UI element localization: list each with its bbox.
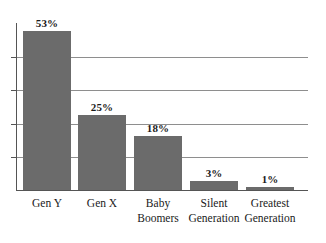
bar-silent-generation[interactable]: [190, 181, 238, 190]
bar-greatest-generation[interactable]: [246, 187, 294, 190]
bar-value-gen-x: 25%: [78, 101, 126, 113]
bar-value-gen-y: 53%: [23, 17, 71, 29]
x-axis-label-silent-generation-line1: Silent: [201, 197, 228, 209]
x-axis-label-greatest-generation-line1: Greatest: [251, 197, 289, 209]
bar-value-baby-boomers: 18%: [134, 122, 182, 134]
bar-gen-y[interactable]: [23, 31, 71, 190]
bar-chart: 53% 25% 18% 3% 1% Gen Y Gen X Baby Boome…: [0, 0, 326, 243]
x-axis-label-greatest-generation: Greatest Generation: [234, 196, 306, 226]
x-axis-label-gen-x: Gen X: [70, 196, 134, 211]
bar-gen-x[interactable]: [78, 115, 126, 190]
x-axis-label-baby-boomers-line1: Baby: [146, 197, 170, 209]
x-axis-label-gen-x-line1: Gen X: [87, 197, 117, 209]
bar-value-greatest-generation: 1%: [246, 173, 294, 185]
bar-baby-boomers[interactable]: [134, 136, 182, 190]
x-axis-label-greatest-generation-line2: Generation: [234, 211, 306, 226]
bar-value-silent-generation: 3%: [190, 167, 238, 179]
x-axis-label-gen-y-line1: Gen Y: [32, 197, 62, 209]
